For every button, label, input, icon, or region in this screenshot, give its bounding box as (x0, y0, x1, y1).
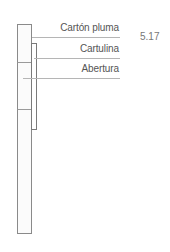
label-carton-pluma: Cartón pluma (60, 22, 119, 33)
cardstock-strip (32, 44, 37, 130)
foam-board-section (18, 25, 32, 234)
label-abertura: Abertura (81, 63, 119, 74)
figure-number: 5.17 (140, 31, 159, 42)
label-cartulina: Cartulina (80, 43, 119, 54)
